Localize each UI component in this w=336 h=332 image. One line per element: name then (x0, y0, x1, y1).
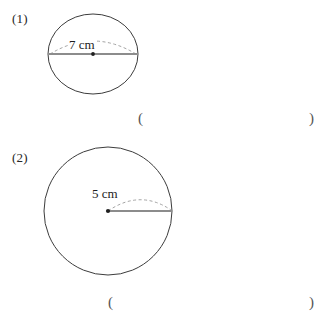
center-dot-2 (106, 209, 110, 213)
diameter-measure-label-1: 7 cm (68, 38, 96, 51)
open-paren-2: ( (108, 295, 113, 310)
circle-diagram-2 (40, 143, 178, 283)
problem-number-2: (2) (12, 151, 28, 164)
measure-arc-2 (108, 200, 171, 211)
problem-number-1: (1) (12, 12, 28, 25)
answer-blank-2[interactable]: ( ) (108, 292, 314, 312)
circle-figure-2: 5 cm (40, 143, 178, 283)
circle-diagram-1 (44, 12, 144, 102)
worksheet-page: (1) 7 cm ( ) (2) 5 cm (0, 0, 336, 332)
radius-measure-label-2: 5 cm (91, 187, 119, 200)
answer-blank-1[interactable]: ( ) (138, 108, 314, 128)
close-paren-1: ) (309, 111, 314, 126)
center-dot-1 (91, 52, 95, 56)
circle-figure-1: 7 cm (44, 12, 144, 102)
open-paren-1: ( (138, 111, 143, 126)
close-paren-2: ) (309, 295, 314, 310)
